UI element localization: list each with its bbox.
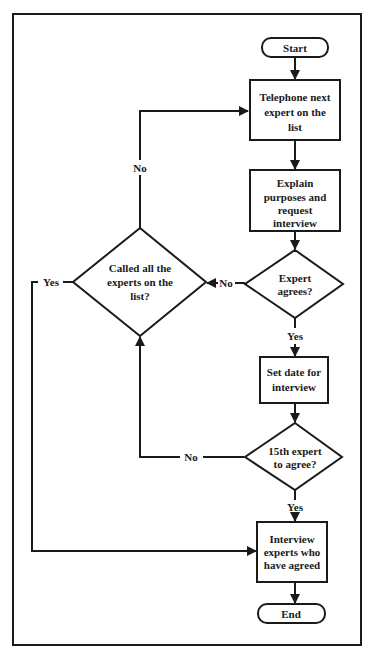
node-explain: Explain purposes and request interview bbox=[250, 170, 340, 231]
node-called-all-line-2: experts on the bbox=[107, 276, 173, 288]
node-telephone: Telephone next expert on the list bbox=[250, 80, 340, 140]
node-explain-line-2: purposes and bbox=[264, 191, 327, 203]
node-expert-agrees-line-1: Expert bbox=[279, 272, 312, 284]
node-start: Start bbox=[262, 38, 328, 57]
node-telephone-line-2: expert on the bbox=[264, 106, 326, 118]
node-called-all: Called all the experts on the list? bbox=[73, 228, 206, 336]
edge-called-all-no-b bbox=[140, 111, 248, 160]
edge-label-fifteenth-yes: Yes bbox=[287, 501, 304, 513]
node-fifteenth-line-1: 15th expert bbox=[268, 445, 322, 457]
node-telephone-line-3: list bbox=[288, 121, 302, 133]
flowchart-canvas: Start Telephone next expert on the list … bbox=[0, 0, 375, 663]
edge-label-expert-agrees-no: No bbox=[219, 277, 233, 289]
edge-fifteenth-no-b bbox=[140, 337, 180, 457]
edge-label-fifteenth-no: No bbox=[184, 451, 198, 463]
node-set-date-line-1: Set date for bbox=[267, 366, 321, 378]
node-end: End bbox=[258, 604, 325, 623]
node-interview-line-2: experts who bbox=[264, 546, 321, 558]
node-interview-line-1: Interview bbox=[269, 533, 314, 545]
node-interview-line-3: have agreed bbox=[264, 559, 320, 571]
node-interview: Interview experts who have agreed bbox=[257, 522, 327, 582]
node-called-all-line-3: list? bbox=[130, 290, 150, 302]
edge-label-expert-agrees-yes: Yes bbox=[287, 330, 304, 342]
node-explain-line-3: request bbox=[278, 204, 313, 216]
node-set-date: Set date for interview bbox=[260, 357, 328, 403]
edge-label-called-all-no: No bbox=[133, 162, 147, 174]
node-start-label: Start bbox=[283, 42, 307, 54]
node-expert-agrees-line-2: agrees? bbox=[277, 285, 312, 297]
node-end-label: End bbox=[281, 608, 301, 620]
node-explain-line-4: interview bbox=[273, 217, 317, 229]
node-called-all-line-1: Called all the bbox=[109, 262, 171, 274]
node-expert-agrees: Expert agrees? bbox=[245, 250, 343, 318]
node-fifteenth: 15th expert to agree? bbox=[245, 423, 342, 490]
node-telephone-line-1: Telephone next bbox=[260, 91, 331, 103]
node-set-date-line-2: interview bbox=[272, 381, 316, 393]
node-fifteenth-line-2: to agree? bbox=[274, 458, 317, 470]
node-explain-line-1: Explain bbox=[277, 177, 314, 189]
edge-label-called-all-yes: Yes bbox=[43, 276, 60, 288]
